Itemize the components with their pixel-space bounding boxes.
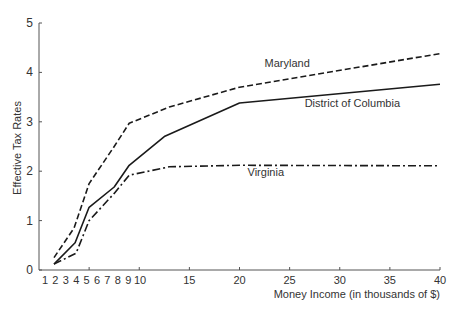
series-labels: MarylandDistrict of ColumbiaVirginia [248,57,401,178]
x-tick-label: 4 [73,274,79,286]
x-tick-label: 6 [94,274,100,286]
x-tick-label: 30 [334,274,346,286]
label-district-of-columbia: District of Columbia [305,97,401,109]
x-tick-label: 7 [104,274,110,286]
y-tick-label: 0 [26,263,33,277]
x-axis-label: Money Income (in thousands of $) [274,288,440,300]
line-virginia [54,165,440,264]
y-axis-label: Effective Tax Rates [11,101,23,195]
x-tick-label: 8 [115,274,121,286]
label-maryland: Maryland [265,57,310,69]
line-maryland [54,54,440,258]
y-tick-label: 4 [26,65,33,79]
y-tick-label: 2 [26,164,33,178]
x-tick-label: 25 [284,274,296,286]
y-tick-label: 5 [26,16,33,30]
x-tick-label: 10 [134,274,146,286]
y-tick-label: 1 [26,214,33,228]
x-tick-label: 35 [384,274,396,286]
label-virginia: Virginia [248,166,285,178]
series-lines [54,54,440,265]
y-tick-label: 3 [26,115,33,129]
x-tick-label: 20 [233,274,245,286]
x-tick-label: 9 [125,274,131,286]
x-tick-label: 40 [434,274,446,286]
axes: 01234512345678910152025303540 [26,16,446,286]
x-tick-label: 5 [84,274,90,286]
x-tick-label: 3 [63,274,69,286]
x-tick-label: 1 [42,274,48,286]
x-tick-label: 15 [183,274,195,286]
x-tick-label: 2 [52,274,58,286]
tax-rate-chart: 01234512345678910152025303540 MarylandDi… [0,0,461,313]
